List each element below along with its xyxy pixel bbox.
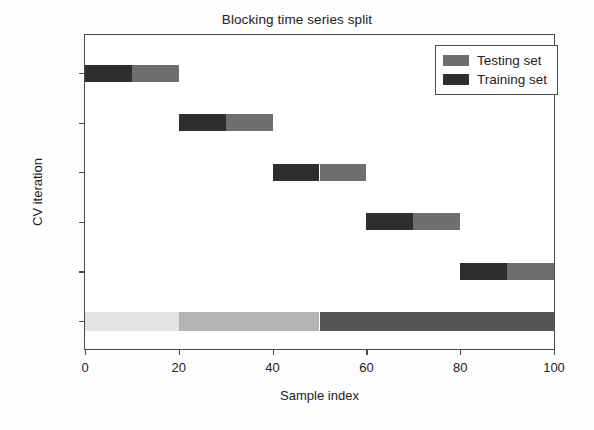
x-axis-tick-mark xyxy=(460,349,461,355)
legend-label: Testing set xyxy=(477,53,542,68)
legend-label: Training set xyxy=(477,72,547,87)
y-axis-tick-mark xyxy=(79,123,85,124)
y-axis-tick-mark xyxy=(79,172,85,173)
chart-legend: Testing setTraining set xyxy=(435,45,558,95)
training-segment xyxy=(273,164,320,181)
testing-segment xyxy=(413,213,460,230)
legend-swatch-icon xyxy=(443,74,469,85)
y-axis-tick-mark xyxy=(79,271,85,272)
x-axis-tick-label: 20 xyxy=(172,360,186,375)
x-axis-tick-mark xyxy=(273,349,274,355)
x-axis-tick-label: 100 xyxy=(543,360,565,375)
x-axis-tick-mark xyxy=(179,349,180,355)
testing-segment xyxy=(320,164,367,181)
cv-fold-row xyxy=(85,213,554,230)
class-segment xyxy=(320,312,555,331)
legend-entry: Testing set xyxy=(443,51,547,70)
x-axis-tick-label: 40 xyxy=(265,360,279,375)
class-segment xyxy=(85,312,179,331)
class-segment xyxy=(179,312,320,331)
chart-title: Blocking time series split xyxy=(0,12,594,27)
class-row xyxy=(85,312,554,331)
cv-fold-row xyxy=(85,263,554,280)
testing-segment xyxy=(226,114,273,131)
x-axis-tick-label: 0 xyxy=(81,360,88,375)
legend-swatch-icon xyxy=(443,55,469,66)
training-segment xyxy=(85,65,132,82)
training-segment xyxy=(366,213,413,230)
y-axis-tick-mark xyxy=(79,222,85,223)
x-axis-tick-label: 80 xyxy=(453,360,467,375)
y-axis-label: CV iteration xyxy=(30,158,45,226)
x-axis-tick-mark xyxy=(554,349,555,355)
x-axis-tick-label: 60 xyxy=(359,360,373,375)
chart-figure: Blocking time series split CV iteration … xyxy=(0,0,594,430)
x-axis-label: Sample index xyxy=(280,388,359,403)
cv-fold-row xyxy=(85,164,554,181)
plot-area: CV iteration Sample index Testing setTra… xyxy=(84,34,555,350)
cv-fold-row xyxy=(85,114,554,131)
testing-segment xyxy=(132,65,179,82)
y-axis-tick-mark xyxy=(79,321,85,322)
x-axis-tick-mark xyxy=(85,349,86,355)
x-axis-tick-mark xyxy=(366,349,367,355)
legend-entry: Training set xyxy=(443,70,547,89)
training-segment xyxy=(460,263,507,280)
training-segment xyxy=(179,114,226,131)
testing-segment xyxy=(507,263,554,280)
y-axis-tick-mark xyxy=(79,73,85,74)
